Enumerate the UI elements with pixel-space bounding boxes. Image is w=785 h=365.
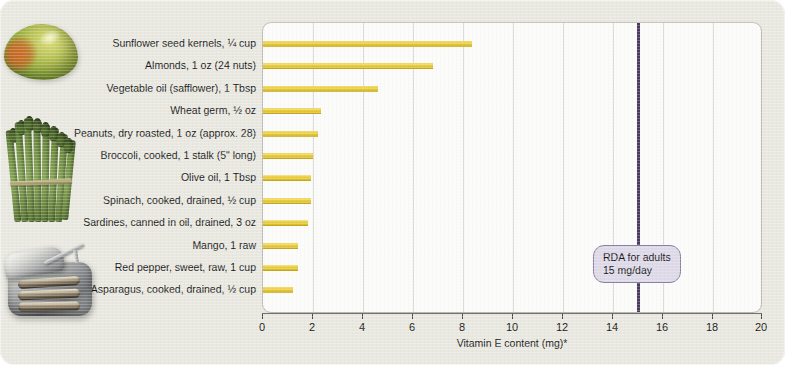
x-tick-12: [562, 313, 563, 319]
category-label: Asparagus, cooked, drained, ½ cup: [91, 283, 256, 295]
category-label: Mango, 1 raw: [192, 239, 256, 251]
x-tick-label: 0: [259, 321, 265, 333]
vitamin-e-chart-figure: Sunflower seed kernels, ¼ cupAlmonds, 1 …: [0, 0, 785, 365]
x-tick-0: [262, 313, 263, 319]
tin-key-handle: [73, 250, 79, 263]
x-axis-title: Vitamin E content (mg)*: [262, 337, 762, 349]
gridline-12: [563, 23, 564, 312]
bar: [263, 41, 472, 47]
plot-area: RDA for adults 15 mg/day: [262, 22, 762, 313]
x-tick-label: 12: [556, 321, 568, 333]
bar: [263, 287, 293, 293]
bar: [263, 198, 311, 204]
category-label: Vegetable oil (safflower), 1 Tbsp: [106, 82, 256, 94]
rda-label-line2: 15 mg/day: [603, 264, 671, 277]
bar: [263, 243, 298, 249]
sardine: [18, 276, 80, 289]
x-tick-label: 4: [359, 321, 365, 333]
rda-label-line1: RDA for adults: [603, 251, 671, 264]
x-tick-14: [612, 313, 613, 319]
rda-annotation-box: RDA for adults 15 mg/day: [593, 245, 681, 283]
x-tick-18: [712, 313, 713, 319]
x-tick-label: 8: [459, 321, 465, 333]
category-label: Sunflower seed kernels, ¼ cup: [112, 37, 256, 49]
category-label: Red pepper, sweet, raw, 1 cup: [115, 261, 256, 273]
bar: [263, 265, 298, 271]
x-tick-label: 18: [706, 321, 718, 333]
asparagus-photo: [8, 118, 74, 228]
x-tick-label: 2: [309, 321, 315, 333]
bar: [263, 108, 321, 114]
bar: [263, 86, 378, 92]
bar: [263, 175, 311, 181]
bar: [263, 131, 318, 137]
x-tick-20: [761, 313, 762, 319]
sardine: [18, 301, 80, 311]
asparagus-spear: [33, 120, 41, 222]
x-tick-label: 10: [506, 321, 518, 333]
x-tick-16: [662, 313, 663, 319]
gridline-18: [713, 23, 714, 312]
sardine: [18, 289, 80, 301]
bar: [263, 153, 313, 159]
x-tick-label: 14: [606, 321, 618, 333]
category-label: Almonds, 1 oz (24 nuts): [145, 59, 256, 71]
x-tick-10: [512, 313, 513, 319]
category-label: Broccoli, cooked, 1 stalk (5" long): [101, 149, 256, 161]
category-label: Sardines, canned in oil, drained, 3 oz: [83, 216, 256, 228]
bar: [263, 63, 433, 69]
x-tick-6: [412, 313, 413, 319]
x-tick-label: 20: [755, 321, 767, 333]
category-label: Wheat germ, ½ oz: [170, 104, 256, 116]
mango-photo: [4, 20, 78, 82]
x-tick-2: [312, 313, 313, 319]
sardine-tin-photo: [2, 248, 98, 324]
bar: [263, 220, 308, 226]
x-tick-8: [462, 313, 463, 319]
x-tick-label: 16: [656, 321, 668, 333]
x-tick-label: 6: [409, 321, 415, 333]
x-tick-4: [362, 313, 363, 319]
category-label: Spinach, cooked, drained, ½ cup: [103, 194, 256, 206]
x-axis: 02468101214161820: [262, 313, 762, 314]
gridline-8: [463, 23, 464, 312]
category-label: Peanuts, dry roasted, 1 oz (approx. 28): [74, 127, 256, 139]
category-label: Olive oil, 1 Tbsp: [181, 171, 256, 183]
gridline-10: [513, 23, 514, 312]
